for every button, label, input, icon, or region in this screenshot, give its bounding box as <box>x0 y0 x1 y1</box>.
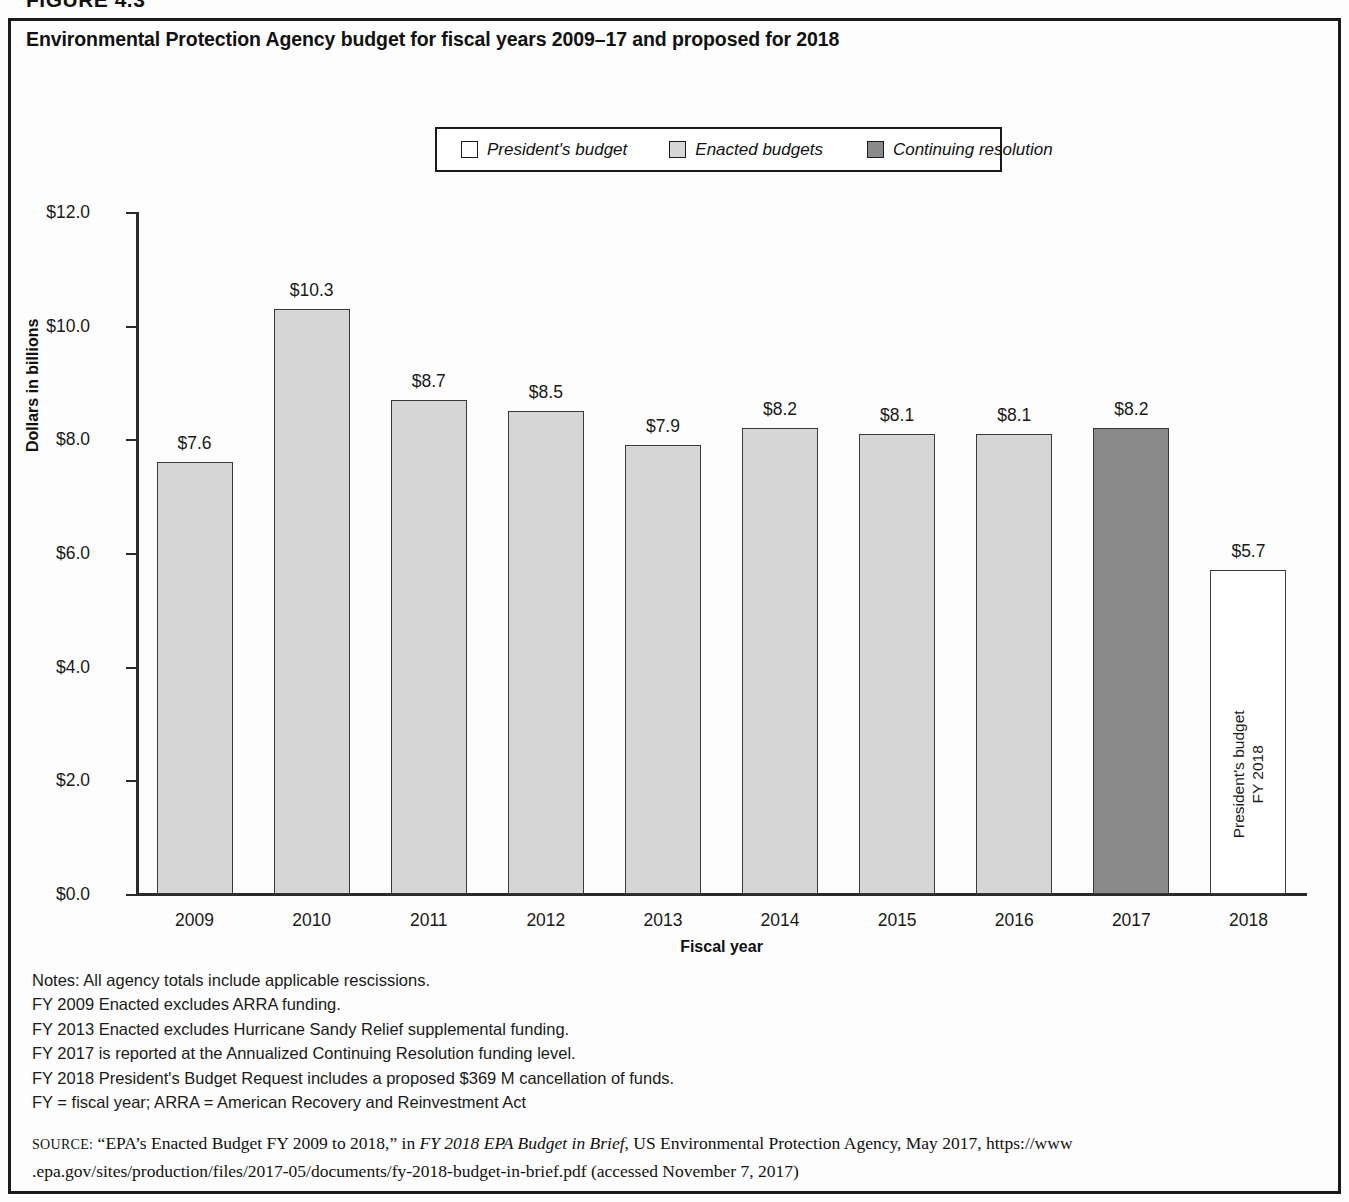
bar-value-label: $8.1 <box>880 405 914 426</box>
bar-value-label: $7.9 <box>646 416 680 437</box>
x-axis-tick-label: 2012 <box>526 910 565 931</box>
y-axis-title: Dollars in billions <box>24 319 42 452</box>
y-axis-tick-label: $8.0 <box>56 429 90 450</box>
x-axis-tick-label: 2011 <box>410 910 448 931</box>
bar-slot: $8.52012 <box>487 212 604 894</box>
bar-slot: $8.22017 <box>1073 212 1190 894</box>
y-axis-tick-label: $4.0 <box>56 656 90 677</box>
note-line: FY 2013 Enacted excludes Hurricane Sandy… <box>32 1017 674 1041</box>
y-axis-tick-label: $10.0 <box>46 315 90 336</box>
bar-2017[interactable] <box>1093 428 1169 894</box>
x-axis-tick-label: 2016 <box>995 910 1034 931</box>
note-line: FY 2017 is reported at the Annualized Co… <box>32 1041 674 1065</box>
bar-2010[interactable] <box>274 309 350 894</box>
bar-2009[interactable] <box>157 462 233 894</box>
plot-area: $0.0$2.0$4.0$6.0$8.0$10.0$12.0 $7.62009$… <box>136 212 1307 894</box>
x-axis-tick-label: 2013 <box>643 910 682 931</box>
bar-value-label: $8.1 <box>997 405 1031 426</box>
legend-item-enacted-budgets: Enacted budgets <box>669 140 823 160</box>
bar-slot: $10.32010 <box>253 212 370 894</box>
x-axis-tick-label: 2017 <box>1112 910 1151 931</box>
y-axis-tick <box>126 553 136 555</box>
y-axis-tick <box>126 894 136 896</box>
figure-notes: Notes: All agency totals include applica… <box>32 968 674 1114</box>
y-axis-tick <box>126 667 136 669</box>
bar-2015[interactable] <box>859 434 935 894</box>
bar-slot: $8.22014 <box>722 212 839 894</box>
bar-slot: $5.7President's budgetFY 20182018 <box>1190 212 1307 894</box>
bar-value-label: $8.5 <box>529 382 563 403</box>
bar-slot: $8.12016 <box>956 212 1073 894</box>
bar-value-label: $10.3 <box>290 280 334 301</box>
figure-number: FIGURE 4.3 <box>26 0 145 12</box>
note-line: FY 2018 President's Budget Request inclu… <box>32 1066 674 1090</box>
source-publication-title: FY 2018 EPA Budget in Brief <box>420 1133 625 1153</box>
legend-swatch-continuing-resolution <box>867 141 884 158</box>
legend-item-presidents-budget: President's budget <box>461 140 627 160</box>
source-prefix: SOURCE: <box>32 1137 93 1152</box>
legend-item-continuing-resolution: Continuing resolution <box>867 140 1053 160</box>
x-axis-tick-label: 2010 <box>292 910 331 931</box>
bar-2016[interactable] <box>976 434 1052 894</box>
y-axis-tick <box>126 326 136 328</box>
legend-label-enacted-budgets: Enacted budgets <box>695 140 823 160</box>
source-line2: .epa.gov/sites/production/files/2017-05/… <box>32 1158 1322 1185</box>
bar-value-label: $7.6 <box>178 433 212 454</box>
bar-slot: $8.12015 <box>839 212 956 894</box>
bar-annotation-fy2018: President's budgetFY 2018 <box>1229 711 1268 839</box>
bar-2011[interactable] <box>391 400 467 894</box>
bar-value-label: $8.7 <box>412 371 446 392</box>
figure-page: FIGURE 4.3 Environmental Protection Agen… <box>0 0 1349 1202</box>
legend-label-presidents-budget: President's budget <box>487 140 627 160</box>
x-axis-tick-label: 2018 <box>1229 910 1268 931</box>
figure-source: SOURCE: “EPA’s Enacted Budget FY 2009 to… <box>32 1130 1322 1185</box>
legend-label-continuing-resolution: Continuing resolution <box>893 140 1053 160</box>
legend-swatch-presidents-budget <box>461 141 478 158</box>
x-axis-tick-label: 2014 <box>761 910 800 931</box>
bar-group: $7.62009$10.32010$8.72011$8.52012$7.9201… <box>136 212 1307 894</box>
bar-value-label: $5.7 <box>1231 541 1265 562</box>
bar-2014[interactable] <box>742 428 818 894</box>
y-axis-tick-label: $12.0 <box>46 202 90 223</box>
bar-value-label: $8.2 <box>1114 399 1148 420</box>
chart-title: Environmental Protection Agency budget f… <box>26 28 839 51</box>
chart-legend: President's budget Enacted budgets Conti… <box>435 127 1002 172</box>
bar-slot: $7.62009 <box>136 212 253 894</box>
note-line: FY = fiscal year; ARRA = American Recove… <box>32 1090 674 1114</box>
bar-value-label: $8.2 <box>763 399 797 420</box>
y-axis-tick <box>126 212 136 214</box>
bar-2013[interactable] <box>625 445 701 894</box>
bar-slot: $8.72011 <box>370 212 487 894</box>
y-axis-tick-label: $6.0 <box>56 543 90 564</box>
source-part1: “EPA’s Enacted Budget FY 2009 to 2018,” … <box>93 1133 419 1153</box>
bar-2012[interactable] <box>508 411 584 894</box>
bar-slot: $7.92013 <box>604 212 721 894</box>
x-axis-tick-label: 2015 <box>878 910 917 931</box>
legend-swatch-enacted-budgets <box>669 141 686 158</box>
y-axis-tick-label: $2.0 <box>56 770 90 791</box>
x-axis-title: Fiscal year <box>136 938 1307 956</box>
source-part2: , US Environmental Protection Agency, Ma… <box>625 1133 1073 1153</box>
note-line: Notes: All agency totals include applica… <box>32 968 674 992</box>
note-line: FY 2009 Enacted excludes ARRA funding. <box>32 992 674 1016</box>
y-axis-tick <box>126 780 136 782</box>
y-axis-tick-label: $0.0 <box>56 884 90 905</box>
x-axis-tick-label: 2009 <box>175 910 214 931</box>
y-axis-tick <box>126 439 136 441</box>
